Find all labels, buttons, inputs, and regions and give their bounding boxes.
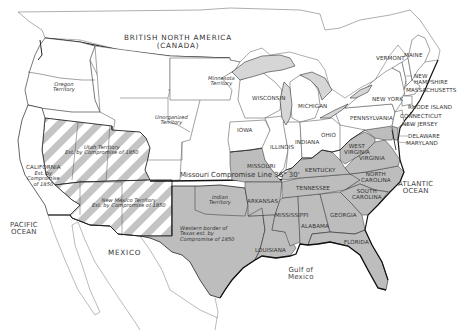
texas-line3: Compromise of 1850 [180, 237, 234, 242]
wisconsin-label: WISCONSIN [252, 96, 286, 102]
texas-border-label: Western border of Texas est. by Compromi… [180, 226, 234, 242]
minnesota-territory-label: Minnesota Territory [208, 76, 235, 87]
arkansas-label: ARKANSAS [247, 199, 278, 205]
pacific-ocean-label: PACIFIC OCEAN [10, 222, 38, 237]
sc-line2: CAROLINA [352, 195, 382, 201]
nh-line2: HAMPSHIRE [414, 80, 448, 86]
michigan-label: MICHIGAN [298, 104, 327, 110]
utah-territory-label: Utah Territory Est. by Compromise of 185… [65, 145, 139, 156]
oregon-territory-label: Oregon Territory [53, 82, 75, 93]
newmexico-line2: Est. by Compromise of 1850 [92, 203, 166, 208]
us-1850-map [0, 0, 458, 334]
ohio-label: OHIO [321, 133, 336, 139]
mexico-label: MEXICO [108, 249, 141, 257]
alabama-label: ALABAMA [301, 224, 329, 230]
mississippi-label: MISSISSIPPI [275, 213, 308, 219]
tennessee-label: TENNESSEE [296, 186, 330, 192]
unorganized-line2: Territory [155, 120, 188, 125]
canada-label: BRITISH NORTH AMERICA (CANADA) [124, 34, 232, 49]
illinois-label: ILLINOIS [270, 145, 294, 151]
west-virginia-label: WEST VIRGINIA [344, 144, 370, 156]
maryland-label: MARYLAND [406, 141, 438, 147]
louisiana-label: LOUISIANA [255, 248, 286, 254]
florida-label: FLORIDA [344, 240, 369, 246]
atlantic-ocean-label: ATLANTIC OCEAN [398, 181, 433, 196]
unorganized-territory-label: Unorganized Territory [155, 115, 188, 126]
missouri-label: MISSOURI [247, 164, 275, 170]
delaware-label: DELAWARE [408, 134, 440, 140]
new-jersey-label: NEW JERSEY [402, 122, 438, 128]
missouri-compromise-label: Missouri Compromise Line 36° 30' [180, 172, 300, 179]
georgia-label: GEORGIA [330, 213, 357, 219]
oregon-line2: Territory [53, 87, 75, 92]
vermont-label: VERMONT [376, 56, 405, 62]
south-carolina-label: SOUTH CAROLINA [352, 189, 382, 201]
kentucky-label: KENTUCKY [305, 168, 336, 174]
indian-territory-label: Indian Territory [209, 195, 231, 206]
minnesota-line2: Territory [208, 81, 235, 86]
iowa-label: IOWA [237, 128, 253, 134]
indiana-label: INDIANA [295, 140, 319, 146]
new-hampshire-label: NEW HAMPSHIRE [414, 74, 448, 86]
indian-line2: Territory [209, 200, 231, 205]
nc-line2: CAROLINA [361, 178, 391, 184]
canada-label-line2: (CANADA) [124, 42, 232, 50]
atlantic-line2: OCEAN [398, 188, 433, 195]
connecticut-label: CONNECTICUT [400, 114, 442, 120]
maine-label: MAINE [404, 53, 423, 59]
gulf-of-mexico-label: Gulf of Mexico [288, 267, 314, 282]
california-line4: of 1850 [26, 182, 61, 187]
new-mexico-territory-label: New Mexico Territory Est. by Compromise … [92, 198, 166, 209]
california-label: CALIFORNIA Est. by Compromise of 1850 [26, 165, 61, 187]
pacific-line2: OCEAN [10, 229, 38, 236]
rhode-island-label: RHODE ISLAND [408, 105, 452, 111]
north-carolina-label: NORTH CAROLINA [361, 172, 391, 184]
virginia-label: VIRGINIA [359, 156, 385, 162]
massachusetts-label: MASSACHUSETTS [406, 88, 456, 94]
gulf-line2: Mexico [288, 274, 314, 281]
pennsylvania-label: PENNSYLVANIA [350, 116, 393, 122]
new-york-label: NEW YORK [372, 97, 403, 103]
utah-line2: Est. by Compromise of 1850 [65, 150, 139, 155]
